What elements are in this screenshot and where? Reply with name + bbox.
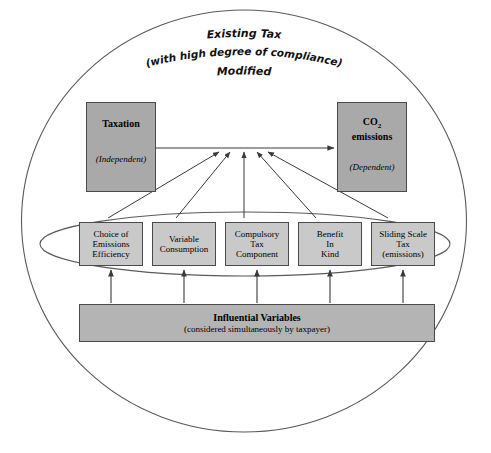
node-variable-choice-of-emissions-efficiency[interactable]: Choice of Emissions Efficiency [79, 222, 143, 266]
node-variable-sliding-scale-tax[interactable]: Sliding Scale Tax (emissions) [371, 222, 435, 266]
variable-label-line: Benefit [317, 229, 344, 239]
variable-label-line: Variable [169, 234, 199, 244]
node-taxation[interactable]: Taxation (Independent) [86, 102, 156, 192]
diagram-canvas: Existing Tax (with high degree of compli… [0, 0, 491, 453]
node-influential-variables-subtitle: (considered simultaneously by taxpayer) [184, 324, 330, 334]
node-co2-title-subscript: 2 [378, 122, 382, 130]
node-co2-emissions-subtitle: (Dependent) [350, 162, 395, 172]
variable-label-line: (emissions) [382, 249, 424, 259]
node-variable-benefit-in-kind[interactable]: Benefit In Kind [298, 222, 362, 266]
variable-label-line: Tax [396, 239, 409, 249]
header-line-3: Modified [216, 64, 271, 78]
node-co2-title-prefix: CO [363, 116, 378, 127]
variable-label-line: Consumption [160, 244, 209, 254]
variable-label-line: Tax [250, 239, 263, 249]
node-co2-emissions-title: CO2emissions [352, 116, 393, 142]
variable-label-line: Emissions [92, 239, 129, 249]
node-co2-title-suffix: emissions [352, 131, 393, 142]
variable-label-line: Choice of [93, 229, 128, 239]
variable-label-line: In [326, 239, 334, 249]
node-variable-variable-consumption[interactable]: Variable Consumption [152, 222, 216, 266]
node-taxation-subtitle: (Independent) [96, 154, 146, 164]
variable-label-line: Compulsory [235, 229, 280, 239]
variable-label-line: Kind [321, 249, 339, 259]
node-taxation-title: Taxation [102, 118, 139, 129]
node-co2-emissions[interactable]: CO2emissions (Dependent) [337, 102, 407, 192]
header-line-1: Existing Tax [206, 27, 282, 41]
variable-label-line: Component [236, 249, 278, 259]
variable-label-line: Sliding Scale [379, 229, 427, 239]
node-influential-variables-title: Influential Variables [213, 312, 301, 323]
node-variable-compulsory-tax-component[interactable]: Compulsory Tax Component [225, 222, 289, 266]
node-influential-variables[interactable]: Influential Variables (considered simult… [79, 304, 435, 342]
variable-label-line: Efficiency [92, 249, 129, 259]
